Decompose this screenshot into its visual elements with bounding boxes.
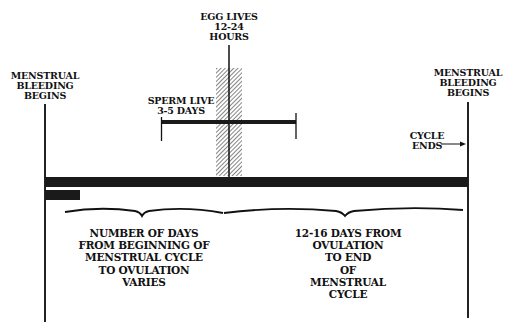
sperm-life-bar <box>161 120 296 124</box>
cycle-timeline-bar <box>45 177 468 187</box>
brace-pre-ovulation <box>65 209 223 216</box>
pre-ovulation-phase-text: NUMBER OF DAYS FROM BEGINNING OF MENSTRU… <box>79 227 210 288</box>
post-ovulation-phase-text: 12-16 DAYS FROM OVULATION TO END OF MENS… <box>295 227 402 300</box>
brace-post-ovulation <box>224 208 463 216</box>
bleeding-period-block <box>45 190 80 200</box>
arrow-head-icon <box>460 142 466 147</box>
diagram-graphics <box>0 0 512 334</box>
